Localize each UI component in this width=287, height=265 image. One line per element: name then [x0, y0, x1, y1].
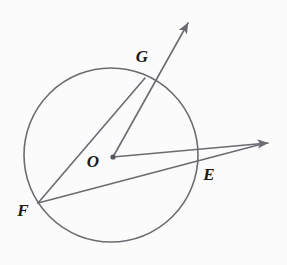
segment-f-g	[38, 78, 145, 203]
ray-o-e	[113, 143, 268, 157]
point-label-o: O	[87, 153, 99, 170]
point-label-g: G	[136, 48, 148, 65]
geometry-canvas	[0, 0, 287, 265]
geometry-figure: G O E F	[0, 0, 287, 265]
center-point-dot	[110, 154, 115, 159]
segment-f-e	[38, 144, 262, 203]
circle-outline	[24, 68, 198, 242]
ray-o-g	[113, 23, 188, 157]
point-label-e: E	[203, 166, 214, 183]
point-label-f: F	[17, 202, 28, 219]
